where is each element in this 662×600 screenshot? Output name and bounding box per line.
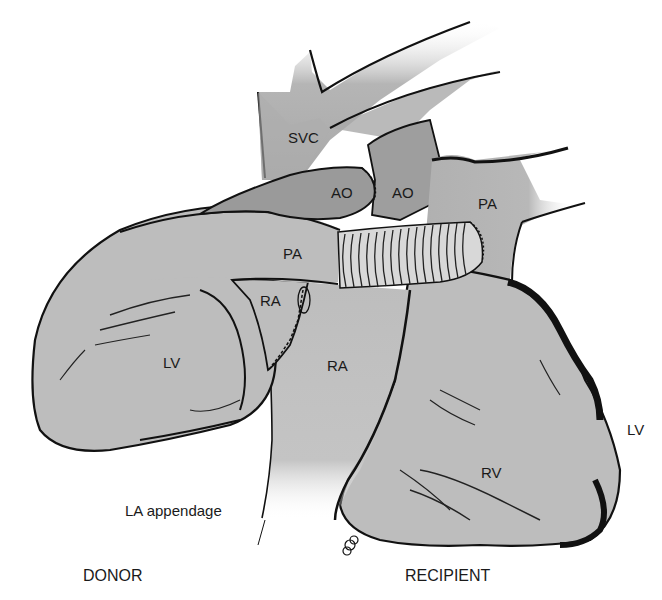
label-pa-donor: PA (283, 246, 302, 261)
label-ra-donor: RA (260, 293, 281, 308)
label-ao-recipient: AO (392, 185, 414, 200)
heart-transplant-diagram (0, 0, 662, 600)
label-lv-recipient: LV (627, 422, 644, 437)
label-ra-recipient: RA (327, 358, 348, 373)
label-lv-donor: LV (163, 355, 180, 370)
label-svc: SVC (288, 130, 319, 145)
label-ao-donor: AO (331, 185, 353, 200)
label-pa-recipient: PA (478, 196, 497, 211)
label-donor: DONOR (83, 568, 143, 584)
label-la-appendage: LA appendage (125, 503, 222, 518)
suture-knot-icon (343, 536, 358, 555)
label-recipient: RECIPIENT (405, 568, 490, 584)
donor-pulmonary-artery (120, 211, 340, 284)
la-appendage-leader (258, 520, 265, 545)
label-rv-recipient: RV (481, 465, 502, 480)
